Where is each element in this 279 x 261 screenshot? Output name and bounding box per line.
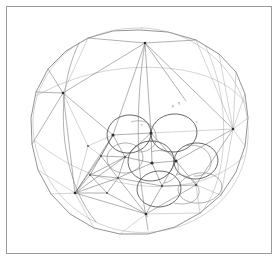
tri-edge-2: [75, 156, 101, 193]
mesh-edge-left-hub-3: [32, 93, 63, 144]
node-tri-4: [106, 192, 108, 194]
mesh-edge-top-right: [145, 40, 196, 43]
mesh-edge-top-hub-3: [145, 43, 151, 133]
mesh-edge-right-hub-3: [151, 129, 233, 133]
tri-edge-35: [75, 146, 88, 193]
node-tri-2: [117, 177, 119, 179]
tri-edge-16: [152, 161, 176, 163]
tri-edge-22: [151, 133, 176, 161]
mesh-edge-bottom-3: [146, 213, 200, 214]
mesh-edge-right-hub-2: [176, 129, 233, 161]
node-group: [62, 42, 235, 216]
node-v-left-upper: [62, 92, 65, 95]
mesh-edge-top-hub-5: [145, 43, 233, 129]
cap-circle-2: [149, 112, 199, 155]
tri-edge-13: [113, 133, 151, 135]
mesh-edge-right-hub-4: [221, 129, 233, 195]
tri-edge-3: [75, 157, 125, 193]
node-cap-center-6: [161, 185, 163, 187]
annotation-label-f: t: [99, 157, 100, 161]
tri-edge-29: [90, 175, 107, 193]
mesh-edge-top-left: [88, 38, 145, 43]
node-cap-center-7: [195, 184, 197, 186]
figure-canvas: p q c r s t u: [0, 0, 279, 261]
cap-arc-echo-3: [186, 145, 211, 176]
tri-edge-5: [101, 156, 125, 157]
mesh-edge-bottom-6: [196, 185, 221, 195]
meridian-left: [63, 43, 96, 222]
annotation-label-c: c: [141, 123, 143, 127]
circle-packing-group: [105, 112, 224, 209]
cap-arc-echo-1: [151, 150, 178, 183]
node-v-top: [144, 42, 147, 45]
cap-circle-5: [136, 170, 182, 209]
annotation-label-a: p: [172, 104, 174, 108]
mesh-edge-bottom-1: [75, 193, 146, 214]
mesh-edge-left-hub-2: [36, 92, 63, 93]
node-tri-3: [89, 174, 91, 176]
tri-edge-28: [107, 178, 118, 193]
annotation-label-b: q: [178, 101, 180, 105]
node-v-right-mid: [232, 128, 235, 131]
node-cap-center-4: [175, 160, 178, 163]
mesh-edge-upper-right-5: [196, 40, 233, 129]
tri-edge-36: [63, 93, 88, 146]
annotation-group: p q c r s t u: [99, 101, 198, 218]
node-v-left-lower: [74, 192, 77, 195]
tri-edge-25: [90, 175, 118, 178]
mesh-edge-top-hub-2: [113, 43, 145, 135]
node-cap-center-5: [124, 156, 126, 158]
cap-circle-3: [127, 139, 176, 182]
sphere-meridian-group: [34, 43, 246, 230]
mesh-edge-bottom-8: [51, 193, 75, 194]
node-tri-1: [100, 155, 102, 157]
sphere-outline-echo: [33, 28, 248, 232]
mesh-edge-right-hub-5: [233, 129, 245, 146]
mesh-edge-left-hub-5: [63, 93, 113, 135]
mesh-edge-right-hub-1: [196, 129, 233, 185]
tri-edge-7: [101, 156, 118, 178]
mesh-edge-left-hub-6: [63, 38, 88, 93]
node-cap-center-1: [112, 134, 115, 137]
mesh-edge-top-hub-4: [145, 43, 186, 101]
tri-edge-9: [118, 178, 146, 214]
tri-edge-21: [146, 186, 162, 214]
node-tri-5: [87, 145, 89, 147]
mesh-edge-left-hub-1: [48, 69, 63, 93]
annotation-label-e: s: [196, 120, 198, 124]
mesh-edge-bottom-4: [120, 214, 146, 234]
annotation-label-g: u: [146, 214, 148, 218]
mesh-edge-bottom-9: [38, 170, 75, 193]
figure-container: p q c r s t u: [0, 0, 279, 261]
tri-edge-34: [88, 146, 101, 156]
node-cap-center-3: [150, 161, 153, 164]
mesh-edge-bottom-2: [146, 185, 196, 214]
node-cap-center-2: [150, 132, 153, 135]
mesh-edge-upper-right-6: [233, 118, 248, 129]
tri-edge-11: [125, 157, 152, 163]
tri-edge-17: [152, 163, 162, 186]
tri-edge-30: [107, 193, 146, 214]
